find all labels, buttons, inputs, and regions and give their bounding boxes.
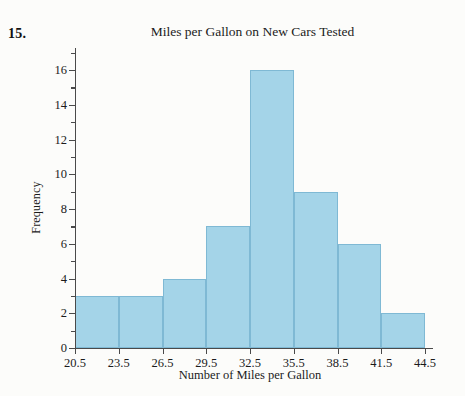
y-axis-line (75, 48, 76, 348)
y-tick-major (69, 279, 75, 280)
y-tick-minor (71, 87, 75, 88)
y-tick-major (69, 70, 75, 71)
x-tick (250, 348, 251, 354)
histogram-bar (75, 296, 119, 348)
x-tick (294, 348, 295, 354)
problem-number: 15. (8, 26, 26, 42)
x-tick-label: 32.5 (239, 356, 261, 371)
textbook-figure-page: 15. Miles per Gallon on New Cars Tested … (0, 0, 465, 396)
y-tick-minor (71, 192, 75, 193)
x-axis-line (75, 348, 433, 349)
chart-title: Miles per Gallon on New Cars Tested (75, 24, 430, 40)
y-tick-label: 14 (55, 97, 68, 112)
y-tick-label: 0 (61, 341, 67, 356)
y-tick-label: 10 (55, 167, 68, 182)
x-tick (163, 348, 164, 354)
y-tick-major (69, 313, 75, 314)
y-tick-minor (71, 122, 75, 123)
y-tick-label: 12 (55, 132, 68, 147)
x-tick-label: 20.5 (64, 356, 86, 371)
y-tick-minor (71, 53, 75, 54)
y-tick-major (69, 209, 75, 210)
y-tick-major (69, 140, 75, 141)
x-tick-label: 29.5 (195, 356, 217, 371)
x-tick-label: 44.5 (414, 356, 436, 371)
x-tick-label: 23.5 (108, 356, 130, 371)
x-tick-label: 35.5 (283, 356, 305, 371)
y-tick-label: 8 (61, 202, 67, 217)
histogram-bar (381, 313, 425, 348)
histogram-bar (338, 244, 382, 348)
y-tick-label: 16 (55, 63, 68, 78)
y-tick-minor (71, 226, 75, 227)
y-tick-minor (71, 157, 75, 158)
x-tick (381, 348, 382, 354)
x-tick-label: 38.5 (327, 356, 349, 371)
y-tick-label: 4 (61, 271, 67, 286)
y-tick-major (69, 244, 75, 245)
y-tick-label: 2 (61, 306, 67, 321)
x-tick (119, 348, 120, 354)
x-tick (75, 348, 76, 354)
y-tick-major (69, 105, 75, 106)
x-tick (425, 348, 426, 354)
y-axis-title: Frequency (29, 181, 44, 233)
y-tick-label: 6 (61, 236, 67, 251)
histogram-bar (163, 279, 207, 349)
y-tick-major (69, 174, 75, 175)
x-tick-label: 41.5 (370, 356, 392, 371)
histogram-bar (206, 226, 250, 348)
x-tick (206, 348, 207, 354)
histogram-bar (250, 70, 294, 348)
histogram-bar (294, 192, 338, 348)
histogram-bar (119, 296, 163, 348)
y-tick-minor (71, 296, 75, 297)
y-tick-minor (71, 331, 75, 332)
x-tick-label: 26.5 (152, 356, 174, 371)
histogram-plot-area: 0246810121416 20.523.526.529.532.535.538… (75, 48, 425, 348)
x-tick (338, 348, 339, 354)
y-tick-minor (71, 261, 75, 262)
